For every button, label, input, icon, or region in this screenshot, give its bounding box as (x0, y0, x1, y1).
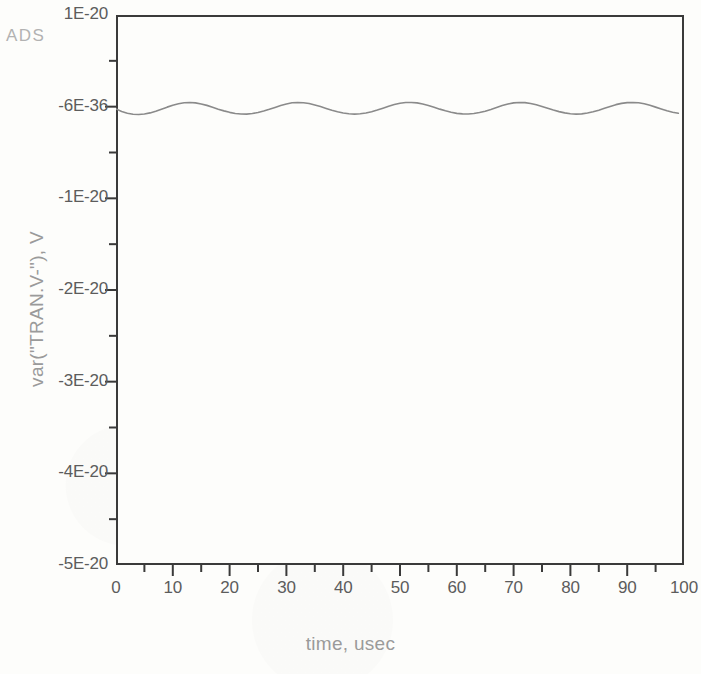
y-axis-title: var("TRAN.V-"), V (26, 159, 48, 459)
x-axis-tick-label: 90 (618, 578, 637, 598)
y-axis-tick-label: -2E-20 (58, 279, 108, 299)
x-axis-minor-ticks (144, 565, 655, 572)
y-axis-tick-label: -6E-36 (58, 96, 108, 116)
x-axis-title: time, usec (0, 633, 701, 655)
y-axis-tick-label: 1E-20 (64, 4, 108, 24)
x-axis-tick-label: 40 (334, 578, 353, 598)
chart-figure: ADS 1E-20-6E-36-1E-20-2E-20-3E-20-4E-20-… (0, 0, 701, 674)
x-axis-tick-label: 100 (670, 578, 698, 598)
y-axis-tick-label: -4E-20 (58, 462, 108, 482)
waveform-series-line (116, 102, 678, 114)
x-axis-tick-label: 10 (164, 578, 183, 598)
y-axis-tick-label-group: 1E-20-6E-36-1E-20-2E-20-3E-20-4E-20-5E-2… (0, 0, 108, 674)
x-axis-tick-label: 60 (448, 578, 467, 598)
x-axis-tick-label: 70 (504, 578, 523, 598)
x-axis-tick-label: 50 (391, 578, 410, 598)
x-axis-tick-label: 80 (561, 578, 580, 598)
waveform-plot-area (116, 15, 684, 565)
y-axis-minor-ticks (109, 61, 116, 519)
y-axis-tick-label: -5E-20 (58, 554, 108, 574)
x-axis-tick-label: 30 (277, 578, 296, 598)
y-axis-tick-label: -3E-20 (58, 371, 108, 391)
y-axis-tick-label: -1E-20 (58, 187, 108, 207)
x-axis-tick-label: 0 (111, 578, 120, 598)
x-axis-tick-label: 20 (220, 578, 239, 598)
x-axis-major-ticks (173, 565, 627, 576)
